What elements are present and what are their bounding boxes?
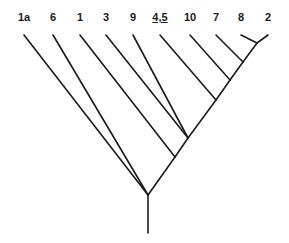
branch-n82-8 — [241, 35, 257, 43]
leaf-label: 8 — [238, 12, 244, 23]
branch-root-1a — [24, 35, 148, 195]
leaf-label: 3 — [103, 12, 109, 23]
branch-n10-n7 — [230, 62, 243, 80]
branch-n10-10 — [190, 35, 230, 80]
branch-n39-n45 — [188, 100, 216, 138]
branch-root-6 — [53, 35, 148, 195]
leaf-label: 4,5 — [152, 12, 167, 23]
leaf-label: 1a — [18, 12, 30, 23]
leaf-label: 7 — [213, 12, 219, 23]
branch-n45-4,5 — [160, 35, 216, 100]
branch-n82-2 — [257, 35, 268, 43]
branch-n7-7 — [216, 35, 243, 62]
branch-n45-n10 — [216, 80, 230, 100]
branch-root-n1 — [148, 157, 175, 195]
leaf-label: 9 — [130, 12, 136, 23]
branch-n1-1 — [80, 35, 175, 157]
leaf-label: 2 — [265, 12, 271, 23]
leaf-label: 6 — [50, 12, 56, 23]
branch-n7-n82 — [243, 43, 257, 62]
leaf-label: 10 — [184, 12, 196, 23]
branch-n1-n39 — [175, 138, 188, 157]
cladogram-tree — [0, 0, 289, 243]
branch-n39-9 — [133, 35, 188, 138]
leaf-label: 1 — [77, 12, 83, 23]
branch-n39-3 — [106, 35, 188, 138]
